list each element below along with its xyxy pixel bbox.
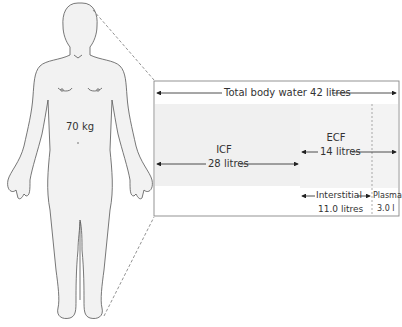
ecf-name: ECF	[322, 133, 350, 143]
body-weight-label: 70 kg	[66, 122, 94, 132]
icf-volume: 28 litres	[208, 159, 249, 169]
interstitial-name: Interstitial	[316, 191, 362, 200]
icf-name: ICF	[212, 145, 236, 155]
interstitial-volume: 11.0 litres	[318, 205, 363, 214]
projection-line-bottom	[104, 217, 154, 316]
plasma-volume: 3.0 l	[377, 205, 395, 213]
total-body-water-label: Total body water 42 litres	[224, 88, 351, 98]
plasma-name: Plasma	[373, 192, 402, 200]
ecf-volume: 14 litres	[320, 147, 361, 157]
human-body-figure	[8, 3, 153, 319]
